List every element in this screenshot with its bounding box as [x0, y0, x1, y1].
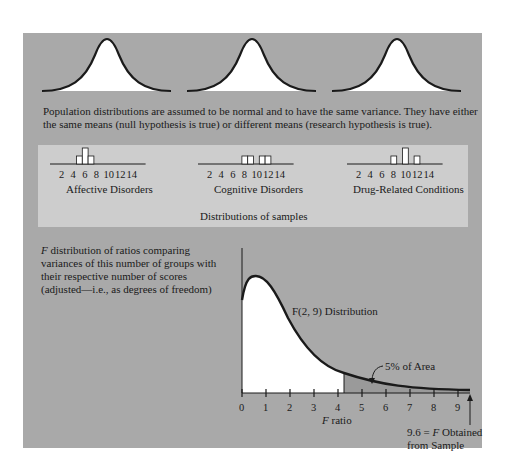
histogram-tick-label: 4: [219, 168, 224, 181]
population-caption-line1: Population distributions are assumed to …: [43, 105, 478, 118]
samples-title: Distributions of samples: [200, 210, 308, 223]
f-axis-symbol: F: [322, 414, 329, 426]
histogram-tick-label: 14: [424, 168, 435, 181]
f-curve-label: F(2, 9) Distribution: [292, 305, 378, 318]
histogram-tick-label: 6: [230, 168, 235, 181]
histogram-bar: [248, 156, 254, 164]
histogram-group-label: Cognitive Disorders: [214, 183, 303, 196]
f-axis-tick-label: 8: [431, 401, 436, 414]
f-axis-tick-label: 6: [383, 401, 388, 414]
histogram-bar: [77, 156, 83, 164]
histogram-group-label: Affective Disorders: [66, 183, 153, 196]
obtained-f-label: 9.6 = F Obtained from Sample: [407, 426, 482, 452]
f-distribution-chart: [242, 248, 473, 425]
histogram-tick-label: 12: [263, 168, 274, 181]
f-axis-label: F ratio: [322, 414, 352, 427]
histogram-tick-label: 12: [115, 168, 126, 181]
histogram-bar: [88, 156, 94, 164]
figure-graphics: [0, 0, 505, 468]
f-axis-tick-label: 5: [359, 401, 364, 414]
f-axis-tick-label: 4: [335, 401, 340, 414]
f-axis-tick-label: 7: [407, 401, 412, 414]
f-axis-tick-label: 9: [455, 401, 460, 414]
histogram-tick-label: 6: [82, 168, 87, 181]
histogram-tick-label: 14: [127, 168, 138, 181]
histogram-tick-label: 2: [59, 168, 64, 181]
histogram-bar: [82, 148, 88, 164]
histogram-tick-label: 2: [207, 168, 212, 181]
f-description: F distribution of ratios comparing varia…: [41, 244, 216, 296]
f-description-line1: distribution of ratios comparing: [50, 244, 190, 256]
histogram-bar: [414, 156, 420, 164]
histogram-tick-label: 6: [379, 168, 384, 181]
histogram-tick-label: 12: [412, 168, 423, 181]
sample-histograms: [50, 148, 443, 164]
f-axis-tick-label: 1: [263, 401, 268, 414]
population-caption-line2: the same means (null hypothesis is true)…: [43, 118, 432, 131]
histogram-tick-label: 10: [103, 168, 114, 181]
f-description-line4: (adjusted—i.e., as degrees of freedom): [41, 283, 216, 296]
f-description-line2: variances of this number of groups with: [41, 257, 216, 270]
f-symbol: F: [41, 244, 48, 256]
f-axis-tick-label: 0: [239, 401, 244, 414]
histogram-tick-label: 8: [94, 168, 99, 181]
obtained-value: 9.6 =: [407, 426, 432, 438]
obtained-line2: from Sample: [407, 439, 482, 452]
histogram-tick-label: 8: [391, 168, 396, 181]
histogram-bar: [391, 156, 397, 164]
obtained-text: Obtained: [439, 426, 482, 438]
histogram-tick-label: 2: [356, 168, 361, 181]
histogram-tick-label: 4: [71, 168, 76, 181]
histogram-tick-label: 4: [368, 168, 373, 181]
f-description-line3: their respective number of scores: [41, 270, 216, 283]
histogram-bar: [242, 156, 248, 164]
population-distribution-1: [42, 39, 171, 91]
histogram-group-label: Drug-Related Conditions: [353, 183, 464, 196]
tail-area-label: 5% of Area: [385, 360, 435, 373]
f-axis-tick-label: 2: [287, 401, 292, 414]
histogram-bar: [259, 156, 265, 164]
histogram-tick-label: 10: [400, 168, 411, 181]
histogram-bar: [265, 156, 271, 164]
population-distribution-2: [187, 39, 316, 91]
f-axis-tick-label: 3: [311, 401, 316, 414]
histogram-tick-label: 10: [251, 168, 262, 181]
histogram-bar: [403, 148, 409, 164]
histogram-tick-label: 8: [242, 168, 247, 181]
f-axis-text: ratio: [331, 414, 351, 426]
population-distribution-3: [332, 39, 461, 91]
histogram-tick-label: 14: [275, 168, 286, 181]
